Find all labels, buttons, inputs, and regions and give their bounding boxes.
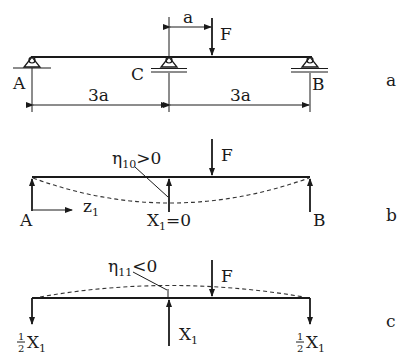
part-b-primary-system: A z1 B X1=0 η10>0 F b <box>19 139 397 233</box>
eta10-leader-line <box>135 167 168 197</box>
eta10-label: η10>0 <box>112 148 161 171</box>
support-b-label: B <box>312 74 325 94</box>
svg-text:2: 2 <box>297 343 303 354</box>
support-a-label: A <box>12 73 26 93</box>
support-b-roller-icon <box>291 57 328 72</box>
part-c-unit-load-system: 1 2 X1 X1 1 2 X1 η11<0 F c <box>17 256 396 355</box>
dim-right-span-label: 3a <box>230 85 251 105</box>
svg-text:2: 2 <box>18 343 24 354</box>
svg-text:1: 1 <box>297 331 303 342</box>
z1-label: z1 <box>83 196 99 219</box>
eta11-label: η11<0 <box>108 256 157 279</box>
svg-text:1: 1 <box>18 331 24 342</box>
panel-label-c: c <box>386 311 396 331</box>
reaction-a-label: A <box>19 210 33 230</box>
support-c-roller-icon <box>151 57 187 72</box>
right-half-x1-label: 1 2 X1 <box>296 331 325 355</box>
redundant-x1-label: X1=0 <box>147 210 191 233</box>
deflection-curve-b <box>33 178 309 203</box>
dim-a-label: a <box>183 7 193 27</box>
left-half-x1-label: 1 2 X1 <box>17 331 46 355</box>
svg-text:X1: X1 <box>27 332 46 355</box>
svg-text:X1: X1 <box>306 332 325 355</box>
force-f-label: F <box>221 145 233 165</box>
dim-left-span-label: 3a <box>88 85 109 105</box>
panel-label-b: b <box>386 205 397 225</box>
part-a-continuous-beam: A C B F a 3a 3a a <box>12 7 396 112</box>
support-a-pin-icon <box>13 57 51 68</box>
reaction-b-label: B <box>313 210 326 230</box>
force-f-label: F <box>221 266 233 286</box>
center-x1-label: X1 <box>179 324 198 347</box>
deflection-curve-c <box>40 286 304 298</box>
force-f-label: F <box>220 24 232 44</box>
beam-diagram-figure: A C B F a 3a 3a a <box>0 0 410 364</box>
support-c-label: C <box>131 64 144 84</box>
panel-label-a: a <box>386 70 396 90</box>
